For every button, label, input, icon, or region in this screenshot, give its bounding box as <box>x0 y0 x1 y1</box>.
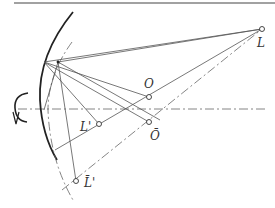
label-L-bar-prime: L̄' <box>83 175 95 190</box>
optics-diagram: L O Ō L' L̄' <box>0 0 275 208</box>
mirror-arc <box>40 12 73 160</box>
label-L-prime: L' <box>79 120 91 134</box>
ray-aux-to-L <box>58 29 262 62</box>
ray-to-Lbarprime <box>58 62 76 181</box>
label-O-bar: Ō <box>150 128 160 143</box>
point-L <box>260 27 265 32</box>
point-O <box>147 95 152 100</box>
point-aux <box>57 61 60 64</box>
label-L: L <box>256 36 265 50</box>
line-Lbarprime-Obar-L <box>62 29 262 190</box>
rotation-arrow-icon <box>15 93 28 122</box>
reference-arc <box>48 42 73 200</box>
ray-aux-long <box>58 62 160 120</box>
point-L-prime <box>97 122 102 127</box>
ray-aux-left <box>44 62 58 110</box>
point-L-bar-prime <box>74 179 79 184</box>
label-O: O <box>144 77 154 91</box>
point-O-bar <box>147 120 152 125</box>
